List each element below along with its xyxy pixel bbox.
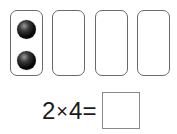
left-operand: 2: [42, 99, 55, 123]
group-box-1: [10, 10, 43, 76]
multiplication-equation: 2 × 4 =: [42, 94, 96, 128]
times-sign: ×: [56, 101, 68, 121]
ball-icon: [17, 20, 36, 39]
group-box-3: [95, 10, 128, 76]
right-operand: 4: [69, 99, 82, 123]
answer-box[interactable]: [102, 92, 140, 129]
ball-icon: [17, 51, 36, 70]
group-box-2: [52, 10, 85, 76]
group-box-4: [137, 10, 170, 76]
equals-sign: =: [82, 99, 96, 123]
